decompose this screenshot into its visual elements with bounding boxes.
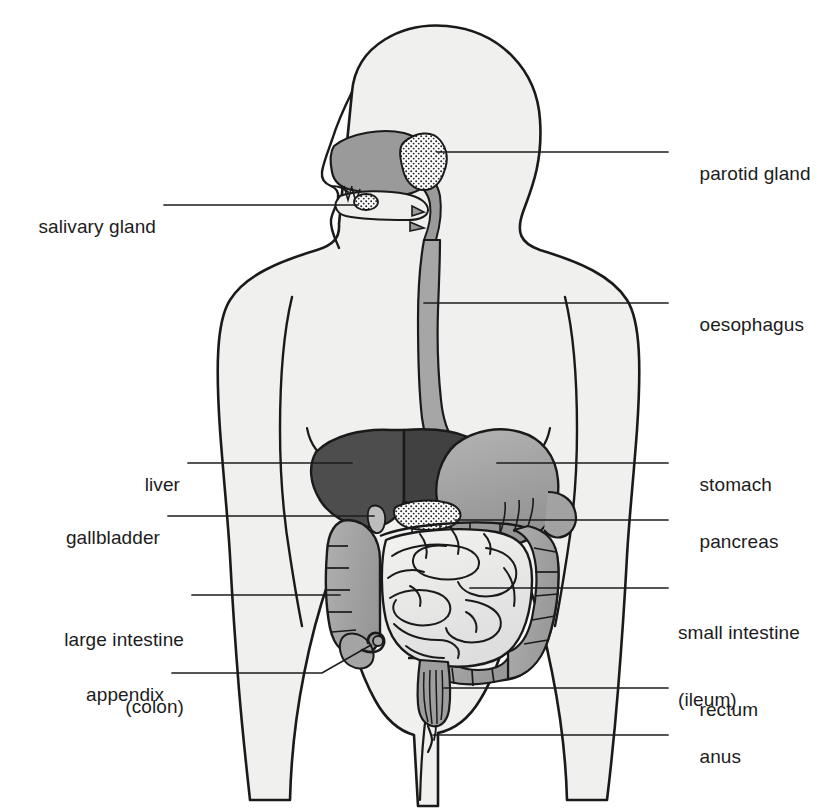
- small-intestine-organ: [382, 529, 532, 667]
- label-liver-text: liver: [145, 474, 180, 495]
- label-oesophagus-text: oesophagus: [700, 314, 805, 335]
- label-parotid-gland: parotid gland: [678, 141, 811, 208]
- parotid-gland-organ: [400, 133, 447, 190]
- label-gallbladder-text: gallbladder: [66, 527, 160, 548]
- label-rectum-text: rectum: [700, 699, 759, 720]
- label-appendix: appendix: [0, 662, 164, 729]
- label-small-intestine-line1: small intestine: [678, 622, 800, 644]
- label-parotid-gland-text: parotid gland: [700, 163, 811, 184]
- diagram-canvas: salivary gland liver gallbladder large i…: [0, 0, 829, 808]
- label-gallbladder: gallbladder: [0, 505, 160, 572]
- label-large-intestine-line1: large intestine: [0, 629, 184, 651]
- label-pancreas: pancreas: [678, 509, 778, 576]
- label-anus-text: anus: [700, 746, 742, 767]
- label-salivary-gland: salivary gland: [0, 194, 156, 261]
- salivary-gland-organ: [354, 194, 378, 210]
- label-anus: anus: [678, 724, 741, 791]
- label-appendix-text: appendix: [86, 684, 164, 705]
- label-salivary-gland-text: salivary gland: [38, 216, 156, 237]
- label-stomach-text: stomach: [700, 474, 773, 495]
- label-oesophagus: oesophagus: [678, 292, 804, 359]
- label-pancreas-text: pancreas: [700, 531, 779, 552]
